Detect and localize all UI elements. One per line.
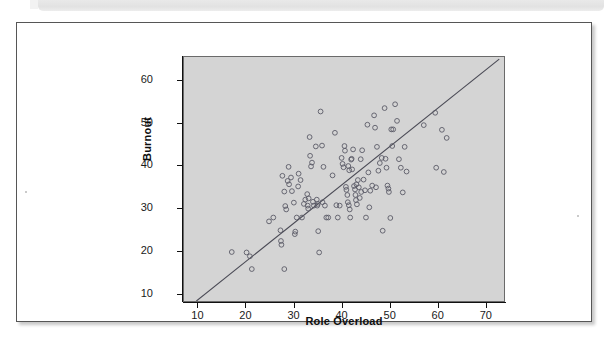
data-point xyxy=(400,190,405,195)
y-tick-label: 60 xyxy=(125,73,153,85)
data-point xyxy=(357,196,362,201)
data-point xyxy=(286,164,291,169)
x-tick-mark xyxy=(342,303,343,308)
data-point xyxy=(434,165,439,170)
data-point xyxy=(348,215,353,220)
data-point xyxy=(290,189,295,194)
data-point xyxy=(282,267,287,272)
y-axis-title: Burnout xyxy=(141,117,153,161)
data-point xyxy=(335,215,340,220)
scatter-plot-svg xyxy=(184,57,504,301)
data-point xyxy=(372,113,377,118)
data-point xyxy=(296,184,301,189)
data-point xyxy=(316,229,321,234)
data-point xyxy=(368,188,373,193)
data-point xyxy=(313,144,318,149)
data-point xyxy=(377,161,382,166)
data-point xyxy=(296,171,301,176)
data-point xyxy=(330,173,335,178)
figure-card: 102030405060 10203040506070 Burnout Role… xyxy=(16,22,592,322)
data-point xyxy=(360,148,365,153)
data-point xyxy=(441,170,446,175)
data-point xyxy=(344,187,349,192)
data-point xyxy=(289,175,294,180)
data-point xyxy=(440,127,445,132)
regression-line-path xyxy=(196,59,499,301)
data-point xyxy=(397,157,402,162)
y-tick-label: 30 xyxy=(125,201,153,213)
data-point xyxy=(384,165,389,170)
data-point xyxy=(271,215,276,220)
y-axis-line xyxy=(182,56,183,302)
data-point xyxy=(307,135,312,140)
y-tick-mark xyxy=(177,80,182,81)
data-point xyxy=(345,193,350,198)
data-point xyxy=(421,123,426,128)
data-point xyxy=(402,144,407,149)
data-point xyxy=(373,125,378,130)
y-tick-mark xyxy=(177,251,182,252)
page-band-edge xyxy=(30,0,38,9)
data-point xyxy=(321,164,326,169)
data-point xyxy=(376,168,381,173)
scan-line-artifact xyxy=(125,23,127,321)
data-point xyxy=(294,215,299,220)
x-axis-line xyxy=(183,302,506,303)
data-point xyxy=(358,157,363,162)
data-point xyxy=(323,203,328,208)
data-point xyxy=(337,203,342,208)
data-point xyxy=(308,153,313,158)
data-point xyxy=(278,228,283,233)
data-point xyxy=(367,205,372,210)
scan-speck xyxy=(25,191,27,193)
data-point xyxy=(361,177,366,182)
data-point xyxy=(398,165,403,170)
x-tick-mark xyxy=(486,303,487,308)
data-point xyxy=(249,267,254,272)
regression-line xyxy=(196,59,499,301)
x-tick-mark xyxy=(197,303,198,308)
data-point xyxy=(388,216,393,221)
data-point xyxy=(353,193,358,198)
data-point xyxy=(339,156,344,161)
data-point xyxy=(345,200,350,205)
y-tick-label: 10 xyxy=(125,287,153,299)
data-point xyxy=(320,143,325,148)
data-point xyxy=(395,118,400,123)
data-point xyxy=(444,136,449,141)
data-point xyxy=(280,173,285,178)
x-tick-mark xyxy=(294,303,295,308)
data-point xyxy=(433,110,438,115)
data-point xyxy=(306,206,311,211)
y-tick-mark xyxy=(177,123,182,124)
x-axis-title: Role Overload xyxy=(183,315,505,327)
data-point xyxy=(387,190,392,195)
data-point xyxy=(380,228,385,233)
data-point xyxy=(375,144,380,149)
data-point xyxy=(382,106,387,111)
x-tick-mark xyxy=(245,303,246,308)
data-point xyxy=(317,250,322,255)
data-point xyxy=(333,130,338,135)
data-point xyxy=(351,147,356,152)
data-point xyxy=(318,109,323,114)
data-point xyxy=(393,102,398,107)
data-point xyxy=(229,250,234,255)
y-tick-mark xyxy=(177,165,182,166)
y-tick-mark xyxy=(177,294,182,295)
x-tick-mark xyxy=(390,303,391,308)
scan-speck xyxy=(577,215,579,217)
data-point xyxy=(364,215,369,220)
data-point xyxy=(365,122,370,127)
data-point xyxy=(267,219,272,224)
data-point xyxy=(298,178,303,183)
data-point xyxy=(404,169,409,174)
x-tick-mark xyxy=(438,303,439,308)
plot-area xyxy=(183,56,505,302)
data-point xyxy=(291,200,296,205)
data-point xyxy=(343,148,348,153)
y-tick-mark xyxy=(177,208,182,209)
data-point xyxy=(282,189,287,194)
data-point xyxy=(342,144,347,149)
page-top-band xyxy=(38,0,604,11)
